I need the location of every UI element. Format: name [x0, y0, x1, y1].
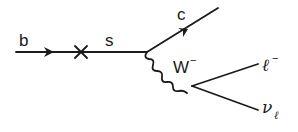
label-neutrino-subscript: ℓ [274, 109, 279, 122]
neutrino-line [192, 86, 258, 110]
label-b: b [19, 31, 28, 50]
label-lepton: ℓ [262, 55, 269, 75]
feynman-diagram: b s c W − ℓ − ν ℓ [0, 0, 298, 132]
label-s: s [105, 31, 114, 50]
label-c: c [177, 5, 186, 24]
label-lepton-charge: − [272, 52, 278, 64]
label-w: W [173, 58, 189, 77]
lepton-line [192, 64, 258, 86]
label-w-charge: − [190, 54, 196, 66]
label-neutrino: ν [262, 97, 272, 117]
